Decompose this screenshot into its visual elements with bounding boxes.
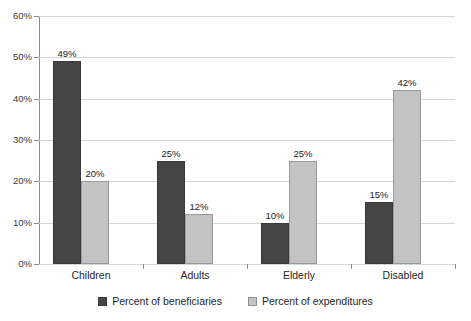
bar-value-label: 49%	[47, 49, 87, 59]
bar-value-label: 12%	[179, 202, 219, 212]
y-axis-tick	[34, 57, 39, 58]
y-axis-label: 30%	[0, 135, 32, 145]
bar-disabled-series-1	[393, 90, 421, 264]
bar-elderly-series-1	[289, 161, 317, 264]
legend-item-1[interactable]: Percent of expenditures	[248, 296, 373, 307]
y-axis-tick	[34, 16, 39, 17]
bar-disabled-series-0	[365, 202, 393, 264]
x-axis-label-adults: Adults	[143, 270, 247, 281]
bar-value-label: 25%	[151, 149, 191, 159]
y-axis-tick	[34, 140, 39, 141]
x-axis-tick	[143, 264, 144, 269]
bar-value-label: 20%	[75, 169, 115, 179]
y-axis-label-wrap: 0%	[0, 259, 32, 269]
bar-value-label: 42%	[387, 78, 427, 88]
bar-elderly-series-0	[261, 223, 289, 264]
bar-adults-series-1	[185, 214, 213, 264]
legend-swatch-icon	[98, 297, 107, 306]
bar-children-series-1	[81, 181, 109, 264]
x-axis-tick	[247, 264, 248, 269]
x-axis-label-children: Children	[39, 270, 143, 281]
gridline	[39, 57, 455, 58]
y-axis-label: 50%	[0, 52, 32, 62]
y-axis-label: 10%	[0, 218, 32, 228]
plot-area: 49%20%25%12%10%25%15%42%	[39, 16, 455, 264]
grouped-bar-chart: 0%10%20%30%40%50%60% 49%20%25%12%10%25%1…	[0, 0, 471, 321]
x-axis-tick	[455, 264, 456, 269]
chart-legend: Percent of beneficiariesPercent of expen…	[0, 296, 471, 307]
y-axis-label: 60%	[0, 11, 32, 21]
y-axis-label-wrap: 10%	[0, 218, 32, 228]
bar-value-label: 25%	[283, 149, 323, 159]
x-axis-label-elderly: Elderly	[247, 270, 351, 281]
y-axis-label-wrap: 50%	[0, 52, 32, 62]
y-axis-label: 40%	[0, 94, 32, 104]
y-axis-label-wrap: 20%	[0, 176, 32, 186]
y-axis-label: 20%	[0, 176, 32, 186]
x-axis-tick	[351, 264, 352, 269]
y-axis-tick	[34, 264, 39, 265]
y-axis-label-wrap: 40%	[0, 94, 32, 104]
bar-children-series-0	[53, 61, 81, 264]
y-axis-label: 0%	[0, 259, 32, 269]
y-axis-tick	[34, 223, 39, 224]
legend-label: Percent of expenditures	[262, 296, 373, 307]
gridline	[39, 16, 455, 17]
y-axis-label-wrap: 30%	[0, 135, 32, 145]
legend-label: Percent of beneficiaries	[112, 296, 222, 307]
y-axis-tick	[34, 99, 39, 100]
bar-adults-series-0	[157, 161, 185, 264]
x-axis-label-disabled: Disabled	[351, 270, 455, 281]
y-axis-label-wrap: 60%	[0, 11, 32, 21]
legend-item-0[interactable]: Percent of beneficiaries	[98, 296, 222, 307]
y-axis-tick	[34, 181, 39, 182]
legend-swatch-icon	[248, 297, 257, 306]
